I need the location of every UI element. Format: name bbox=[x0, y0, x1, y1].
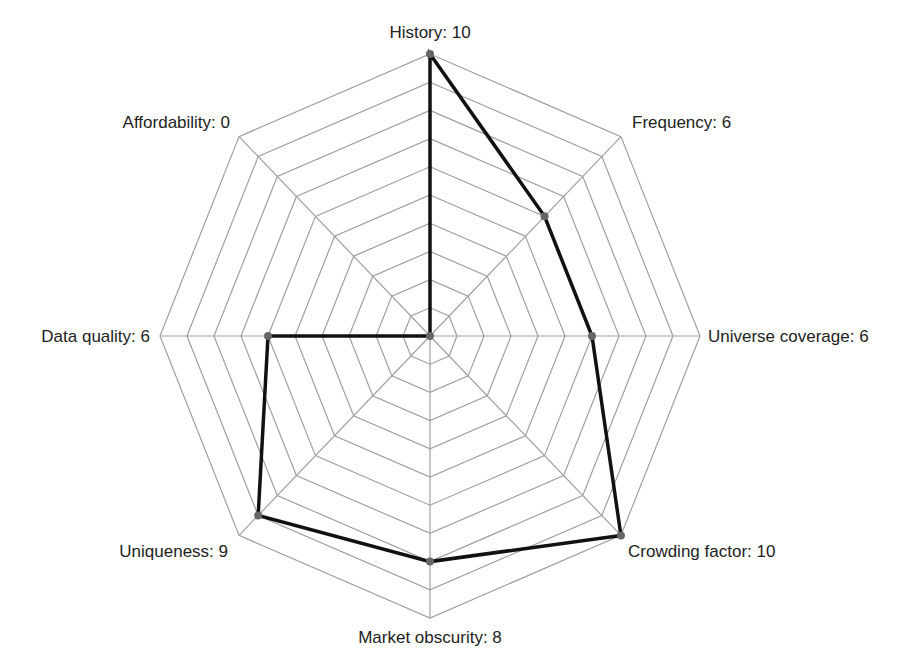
data-point-marker bbox=[254, 511, 262, 519]
axis-spoke bbox=[239, 137, 430, 336]
data-point-marker bbox=[588, 332, 596, 340]
data-point-marker bbox=[264, 332, 272, 340]
axis-spoke bbox=[430, 137, 621, 336]
axis-label-history: History: 10 bbox=[389, 23, 470, 42]
data-point-marker bbox=[426, 558, 434, 566]
axis-spoke bbox=[430, 336, 621, 535]
series-polygon bbox=[258, 54, 621, 562]
axis-label-market-obscurity: Market obscurity: 8 bbox=[358, 628, 502, 647]
axis-label-universe-coverage: Universe coverage: 6 bbox=[708, 327, 869, 346]
data-series bbox=[254, 50, 625, 566]
data-point-marker bbox=[617, 531, 625, 539]
data-point-marker bbox=[426, 50, 434, 58]
data-point-marker bbox=[541, 212, 549, 220]
axis-labels: History: 10 Frequency: 6 Universe covera… bbox=[41, 23, 868, 647]
axis-label-frequency: Frequency: 6 bbox=[632, 113, 731, 132]
axis-label-uniqueness: Uniqueness: 9 bbox=[119, 542, 228, 561]
axis-label-data-quality: Data quality: 6 bbox=[41, 327, 150, 346]
data-point-marker bbox=[426, 332, 434, 340]
axis-label-affordability: Affordability: 0 bbox=[123, 113, 230, 132]
axis-label-crowding-factor: Crowding factor: 10 bbox=[628, 542, 775, 561]
radar-chart: History: 10 Frequency: 6 Universe covera… bbox=[0, 0, 919, 665]
